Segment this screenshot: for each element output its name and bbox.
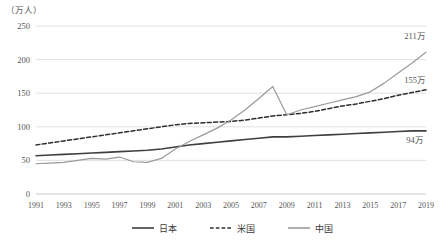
y-axis-tick-label: 50 xyxy=(22,155,31,165)
x-axis-tick-label: 1991 xyxy=(28,201,44,210)
x-axis-tick-label: 2019 xyxy=(418,201,434,210)
line-chart: 050100150200250 199119931995199719992001… xyxy=(0,0,441,242)
y-axis-tick-label: 100 xyxy=(17,122,30,132)
x-axis-tick-label: 1997 xyxy=(112,201,128,210)
x-axis-tick-label: 2009 xyxy=(279,201,295,210)
legend-layer: 日本米国中国 xyxy=(132,223,333,234)
end-value-label-usa: 155万 xyxy=(404,75,426,85)
x-axis-tick-label: 2005 xyxy=(223,201,239,210)
y-axis-tick-label: 0 xyxy=(26,189,30,199)
x-axis-tick-label: 2003 xyxy=(195,201,211,210)
series-line-china xyxy=(36,52,426,164)
x-axis-tick-label: 1995 xyxy=(84,201,100,210)
ytick-layer: 050100150200250 xyxy=(17,21,30,199)
y-axis-tick-label: 250 xyxy=(17,21,30,31)
y-axis-unit-label: （万人） xyxy=(6,5,42,15)
chart-container: 050100150200250 199119931995199719992001… xyxy=(0,0,441,242)
y-axis-tick-label: 200 xyxy=(17,55,30,65)
grid-layer xyxy=(36,26,426,194)
x-axis-tick-label: 1993 xyxy=(56,201,72,210)
y-axis-tick-label: 150 xyxy=(17,88,30,98)
x-axis-tick-label: 1999 xyxy=(139,201,155,210)
end-value-label-japan: 94万 xyxy=(406,135,424,145)
x-axis-tick-label: 2017 xyxy=(390,201,406,210)
x-axis-tick-label: 2011 xyxy=(307,201,323,210)
x-axis-tick-label: 2001 xyxy=(167,201,183,210)
legend-label-1: 米国 xyxy=(237,223,255,234)
legend-label-0: 日本 xyxy=(159,223,177,234)
endlabel-layer: 94万155万211万 xyxy=(404,31,426,145)
legend-label-2: 中国 xyxy=(315,223,333,234)
x-axis-tick-label: 2013 xyxy=(334,201,350,210)
series-line-japan xyxy=(36,131,426,156)
x-axis-tick-label: 2015 xyxy=(362,201,378,210)
series-line-usa xyxy=(36,90,426,145)
xtick-layer: 1991199319951997199920012003200520072009… xyxy=(28,201,434,210)
end-value-label-china: 211万 xyxy=(404,31,425,41)
x-axis-tick-label: 2007 xyxy=(251,201,267,210)
series-layer xyxy=(36,52,426,164)
